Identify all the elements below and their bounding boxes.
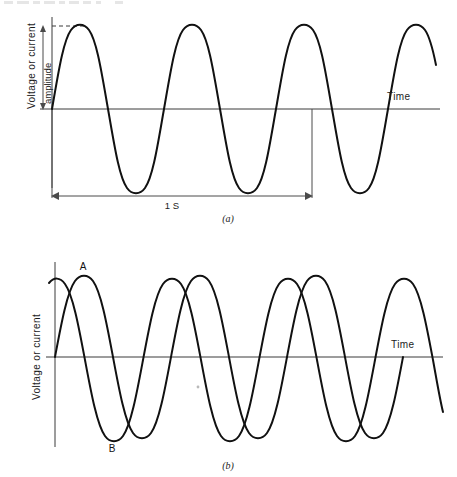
panel-b-series-b-label: B: [109, 443, 116, 454]
panel-a-time-label: Time: [387, 91, 410, 102]
panel-b-y-axis-label: Voltage or current: [31, 314, 42, 400]
panel-b-series-a-label: A: [80, 261, 87, 272]
panel-a-period-label: 1 S: [165, 200, 179, 211]
figure-background: [0, 0, 457, 477]
scan-speck-artifact: [197, 386, 200, 389]
panel-a-y-axis-label: Voltage or current: [26, 23, 37, 109]
panel-b-caption: (b): [222, 460, 234, 472]
panel-b-time-label: Time: [391, 339, 414, 350]
waveform-figure: Voltage or current amplitude Time 1 S (a…: [0, 0, 457, 477]
panel-a-caption: (a): [222, 213, 234, 225]
panel-a-amplitude-label: amplitude: [42, 63, 53, 104]
